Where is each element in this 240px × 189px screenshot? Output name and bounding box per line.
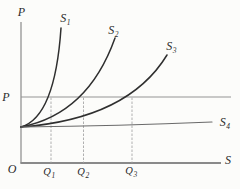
curve-s2-label: S2: [108, 24, 118, 36]
plot-canvas: [0, 0, 240, 189]
supply-diagram: P S O P S1 S2 S3 S4 Q1 Q2 Q3: [0, 0, 240, 189]
origin-label: O: [8, 163, 17, 175]
curve-s3-label: S3: [166, 40, 176, 52]
curve-s1: [21, 28, 61, 127]
x-axis-label: S: [225, 154, 231, 166]
curve-s1-label: S1: [60, 12, 70, 24]
tick-q3-label: Q3: [125, 166, 136, 177]
curve-s4-label: S4: [220, 116, 230, 128]
y-axis-label: P: [18, 6, 25, 18]
tick-q2-label: Q2: [77, 167, 88, 178]
tick-q1-label: Q1: [43, 167, 54, 178]
curve-s3: [21, 55, 167, 127]
curve-s2: [21, 38, 115, 127]
curve-s4: [21, 122, 212, 127]
price-level-label: P: [2, 91, 9, 103]
